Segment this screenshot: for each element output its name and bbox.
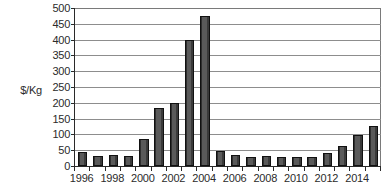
x-axis-tick-label: 2004 bbox=[192, 172, 216, 184]
x-axis-tickmark bbox=[365, 167, 366, 171]
y-axis-tickmark bbox=[71, 71, 75, 72]
y-axis-tickmark bbox=[71, 150, 75, 151]
x-axis-tick-label: 2008 bbox=[253, 172, 277, 184]
x-axis-tickmark bbox=[227, 167, 228, 171]
bar bbox=[338, 146, 347, 166]
y-axis-tickmark bbox=[71, 8, 75, 9]
bar bbox=[277, 157, 286, 166]
y-axis-tickmark bbox=[71, 119, 75, 120]
x-axis-tickmark bbox=[319, 167, 320, 171]
y-axis-tickmark bbox=[71, 87, 75, 88]
y-axis-tick-label: 250 bbox=[44, 82, 70, 93]
x-axis-tickmark bbox=[349, 167, 350, 171]
bar bbox=[185, 40, 194, 166]
bar bbox=[246, 157, 255, 166]
y-axis-tick-label: 100 bbox=[44, 129, 70, 140]
bar bbox=[369, 126, 378, 166]
bar bbox=[124, 156, 133, 166]
y-axis-tick-label: 50 bbox=[44, 145, 70, 156]
x-axis-tickmark bbox=[242, 167, 243, 171]
y-axis-tickmark bbox=[71, 134, 75, 135]
x-axis-tick-label: 2006 bbox=[223, 172, 247, 184]
x-axis-tick-label: 2012 bbox=[315, 172, 339, 184]
x-axis-tickmark bbox=[380, 167, 381, 171]
y-axis-tickmark bbox=[71, 103, 75, 104]
x-axis-tickmark bbox=[212, 167, 213, 171]
y-axis-tick-label: 400 bbox=[44, 34, 70, 45]
x-axis-tick-label: 1996 bbox=[70, 172, 94, 184]
x-axis-tickmark bbox=[196, 167, 197, 171]
y-axis-title: $/Kg bbox=[2, 84, 42, 96]
bar bbox=[200, 16, 209, 166]
y-axis-tickmark bbox=[71, 40, 75, 41]
bar bbox=[262, 156, 271, 166]
y-axis-tickmark bbox=[71, 24, 75, 25]
y-axis-tick-label: 300 bbox=[44, 66, 70, 77]
x-axis-tickmark bbox=[273, 167, 274, 171]
bar bbox=[139, 139, 148, 166]
y-axis-tick-label: 450 bbox=[44, 18, 70, 29]
x-axis-tick-label: 2002 bbox=[162, 172, 186, 184]
bar bbox=[109, 155, 118, 166]
bar bbox=[78, 152, 87, 166]
x-axis-tickmark bbox=[258, 167, 259, 171]
bar bbox=[292, 157, 301, 166]
x-axis-tick-label: 1998 bbox=[100, 172, 124, 184]
y-axis-tick-label: 0 bbox=[44, 161, 70, 172]
y-axis-tick-labels: 050100150200250300350400450500 bbox=[44, 8, 70, 166]
y-axis-tick-label: 150 bbox=[44, 113, 70, 124]
x-axis-tickmark bbox=[181, 167, 182, 171]
bar bbox=[93, 156, 102, 166]
x-axis-tickmark bbox=[166, 167, 167, 171]
bar bbox=[154, 108, 163, 166]
x-axis-tickmark bbox=[120, 167, 121, 171]
x-axis-tickmark bbox=[334, 167, 335, 171]
x-axis-tickmark bbox=[288, 167, 289, 171]
x-axis-tickmark bbox=[304, 167, 305, 171]
bar bbox=[170, 103, 179, 166]
bar bbox=[216, 151, 225, 166]
bar bbox=[353, 135, 362, 166]
y-axis-tick-label: 200 bbox=[44, 97, 70, 108]
y-axis-tick-label: 500 bbox=[44, 3, 70, 14]
x-axis-tick-label: 2010 bbox=[284, 172, 308, 184]
x-axis-tickmark bbox=[89, 167, 90, 171]
bar bbox=[323, 153, 332, 166]
y-axis-tick-label: 350 bbox=[44, 50, 70, 61]
x-axis-tick-label: 2000 bbox=[131, 172, 155, 184]
bars-layer bbox=[75, 8, 381, 166]
plot-area bbox=[74, 8, 381, 167]
x-axis-tickmark bbox=[151, 167, 152, 171]
bar-chart: $/Kg 050100150200250300350400450500 1996… bbox=[0, 0, 392, 193]
x-axis-tickmark bbox=[105, 167, 106, 171]
x-axis-tick-label: 2014 bbox=[345, 172, 369, 184]
y-axis-tickmark bbox=[71, 55, 75, 56]
x-axis-tick-labels: 1996199820002002200420062008201020122014 bbox=[74, 172, 380, 188]
x-axis-tickmark bbox=[74, 167, 75, 171]
bar bbox=[307, 157, 316, 166]
x-axis-tickmark bbox=[135, 167, 136, 171]
bar bbox=[231, 155, 240, 166]
